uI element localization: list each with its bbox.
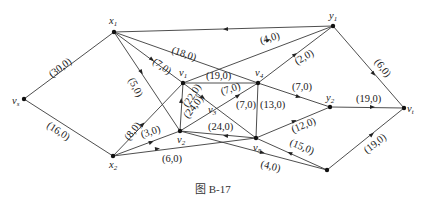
node-y2 <box>328 105 332 109</box>
arrow-icon <box>223 134 228 138</box>
node-v1 <box>181 81 185 85</box>
node-x2 <box>111 154 115 158</box>
node-x1 <box>112 30 116 34</box>
label-w-vt: (19,0) <box>361 131 389 156</box>
edge-v2-v1 <box>180 83 183 131</box>
node-y1 <box>331 24 335 28</box>
edge-v4-v5 <box>256 83 258 138</box>
edge-y2-vt <box>330 107 404 108</box>
node-label-vs: vs <box>12 95 20 108</box>
node-w <box>325 168 329 172</box>
node-label-vt: vt <box>407 103 415 116</box>
label-y1-x1: (18,0) <box>170 44 198 63</box>
edge-vs-x2 <box>24 99 113 156</box>
node-label-v3: v3 <box>208 104 217 117</box>
node-label-v5: v5 <box>253 142 262 155</box>
label-x1-v2: (5,0) <box>125 76 145 100</box>
label-v5-v2: (24,0) <box>208 121 234 133</box>
label-x2-v5: (6,0) <box>162 153 183 165</box>
label-y2-vt: (19,0) <box>356 93 382 105</box>
node-label-v1: v1 <box>179 67 187 80</box>
label-v5-y2: (12,0) <box>290 115 318 136</box>
label-v4-v5: (13,0) <box>260 99 286 111</box>
label-v2-w: (4,0) <box>259 158 282 175</box>
arrow-icon <box>287 150 293 156</box>
nodes <box>22 24 406 172</box>
node-vs <box>22 97 26 101</box>
node-label-y2: y2 <box>325 92 335 105</box>
arrow-icon <box>370 105 375 109</box>
label-y1-vt: (6,0) <box>372 56 394 80</box>
label-v5-v4: (7,0) <box>236 99 257 111</box>
label-v4-y2: (7,0) <box>292 81 313 93</box>
arrow-icon <box>148 139 154 144</box>
arrow-icon <box>223 27 228 31</box>
network-flow-diagram: vs x1 x2 v1 v2 v3 v4 v5 y1 y2 vt (30,0) … <box>0 0 422 201</box>
edge-v5-v2 <box>180 131 256 138</box>
label-vs-x1: (30,0) <box>47 55 75 80</box>
node-label-v2: v2 <box>177 134 186 147</box>
figure-caption: 图 B-17 <box>195 183 231 195</box>
label-x1-v1: (7,0) <box>150 56 174 78</box>
label-v4-y1: (2,0) <box>293 47 317 68</box>
edge-x1-v1 <box>114 32 183 83</box>
node-vt <box>402 106 406 110</box>
node-v2 <box>178 129 182 133</box>
node-v4 <box>256 81 260 85</box>
node-label-x2: x2 <box>108 159 118 172</box>
edges <box>24 26 404 170</box>
label-v1-v4: (19,0) <box>206 70 232 82</box>
node-v5 <box>254 136 258 140</box>
edge-labels: (30,0) (16,0) (5,0) (7,0) (18,0) (8,0) (… <box>44 30 393 175</box>
label-v1-y1: (4,0) <box>259 30 282 47</box>
label-vs-x2: (16,0) <box>44 119 72 143</box>
node-label-y1: y1 <box>328 10 337 23</box>
node-label-x1: x1 <box>108 15 117 28</box>
edge-w-vt <box>327 108 404 170</box>
node-label-v4: v4 <box>255 67 264 80</box>
edge-x1-v2 <box>114 32 180 131</box>
